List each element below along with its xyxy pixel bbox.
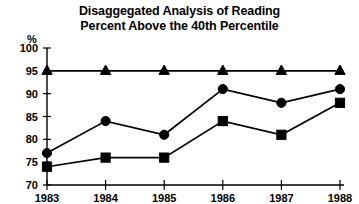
series-triangle [42,65,345,74]
chart-figure: Disaggegated Analysis of Reading Percent… [0,0,359,204]
y-tick-label-100: 100 [20,42,38,54]
data-point-triangle-1983 [42,65,52,74]
data-point-square-1984 [101,153,110,162]
chart-plot-area: 707580859095100 198319841985198619871988 [0,0,359,204]
data-point-square-1988 [335,98,344,107]
data-point-square-1987 [277,130,286,139]
data-point-circle-1985 [160,130,169,139]
data-point-triangle-1988 [335,65,345,74]
data-point-circle-1983 [42,148,51,157]
data-point-square-1983 [42,162,51,171]
y-tick-label-75: 75 [26,156,38,168]
x-tick-label-1987: 1987 [269,192,293,204]
x-tick-label-1984: 1984 [93,192,118,204]
data-point-circle-1984 [101,116,110,125]
y-tick-label-90: 90 [26,88,38,100]
data-point-square-1986 [218,116,227,125]
data-point-triangle-1986 [218,65,228,74]
x-tick-label-1988: 1988 [328,192,352,204]
data-point-circle-1986 [218,85,227,94]
series-circle [42,85,344,158]
data-point-circle-1987 [277,98,286,107]
y-tick-label-85: 85 [26,111,38,123]
data-point-circle-1988 [335,85,344,94]
series-square [42,98,344,171]
x-tick-label-1985: 1985 [152,192,176,204]
x-tick-label-1983: 1983 [35,192,59,204]
y-tick-label-70: 70 [26,179,38,191]
data-point-square-1985 [160,153,169,162]
x-tick-label-1986: 1986 [211,192,235,204]
series-line-circle [47,89,340,153]
y-tick-label-95: 95 [26,65,38,77]
y-axis-tick-labels: 707580859095100 [20,42,38,191]
data-point-triangle-1985 [159,65,169,74]
y-tick-label-80: 80 [26,133,38,145]
data-point-triangle-1984 [100,65,110,74]
data-point-triangle-1987 [276,65,286,74]
x-axis-tick-labels: 198319841985198619871988 [35,192,352,204]
data-series-group [42,65,345,171]
